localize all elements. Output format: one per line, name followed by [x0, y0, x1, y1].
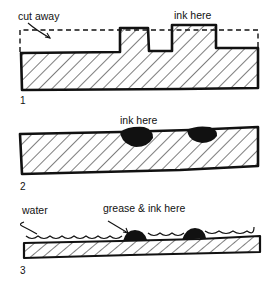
water-film-2	[148, 233, 184, 236]
panel-number-2: 2	[20, 181, 26, 192]
diagram-canvas: cut away ink here 1 ink here 2 water gre…	[0, 0, 274, 291]
label-ink-here-1: ink here	[174, 9, 212, 21]
panel-number-3: 3	[20, 265, 26, 276]
water-film-3	[205, 227, 254, 234]
panel-number-1: 1	[20, 95, 26, 106]
grease-ink-2	[182, 228, 206, 240]
water-film-1	[26, 236, 122, 239]
label-grease-ink-here: grease & ink here	[103, 202, 185, 214]
label-ink-here-2: ink here	[120, 114, 158, 126]
cut-away-arrow	[28, 23, 50, 38]
water-arrow	[20, 222, 37, 234]
grease-arrow	[108, 221, 128, 233]
relief-block	[21, 25, 258, 90]
panel-3: water grease & ink here 3	[20, 202, 260, 276]
label-cut-away: cut away	[18, 10, 60, 22]
panel-2: ink here 2	[20, 114, 258, 192]
printing-process-diagram: cut away ink here 1 ink here 2 water gre…	[0, 0, 274, 291]
label-water: water	[21, 204, 48, 216]
panel-1: cut away ink here 1	[18, 9, 258, 106]
